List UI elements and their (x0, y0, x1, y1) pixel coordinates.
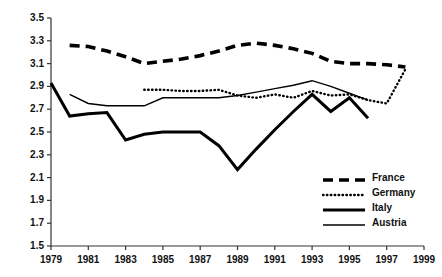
y-tick-label: 1.7 (4, 217, 44, 228)
series-line-italy (51, 83, 368, 170)
legend-item-france: France (322, 170, 434, 185)
legend-swatch-austria-icon (322, 217, 366, 229)
y-tick-label: 2.1 (4, 172, 44, 183)
series-line-austria (70, 81, 368, 106)
legend-label-france: France (372, 172, 405, 183)
legend-swatch-germany-icon (322, 187, 366, 199)
y-tick-label: 2.3 (4, 149, 44, 160)
x-tick-label: 1995 (329, 254, 369, 265)
legend-swatch-italy-icon (322, 202, 366, 214)
legend-item-italy: Italy (322, 200, 434, 215)
x-tick-label: 1989 (218, 254, 258, 265)
y-tick-label: 3.3 (4, 35, 44, 46)
legend: France Germany Italy Austria (322, 170, 434, 230)
plot-area (0, 0, 442, 277)
legend-label-germany: Germany (372, 187, 415, 198)
x-tick-label: 1999 (404, 254, 442, 265)
y-tick-label: 3.1 (4, 58, 44, 69)
x-tick-label: 1997 (367, 254, 407, 265)
y-tick-label: 1.5 (4, 240, 44, 251)
x-tick-label: 1981 (68, 254, 108, 265)
x-tick-label: 1985 (143, 254, 183, 265)
y-tick-label: 3.5 (4, 12, 44, 23)
x-tick-label: 1993 (292, 254, 332, 265)
y-tick-label: 2.9 (4, 80, 44, 91)
y-tick-label: 2.5 (4, 126, 44, 137)
legend-label-austria: Austria (372, 217, 406, 228)
line-chart: 1.51.71.92.12.32.52.72.93.13.33.5 197919… (0, 0, 442, 277)
y-tick-label: 1.9 (4, 194, 44, 205)
y-tick-label: 2.7 (4, 103, 44, 114)
x-tick-label: 1983 (106, 254, 146, 265)
data-series (51, 43, 405, 170)
legend-label-italy: Italy (372, 202, 392, 213)
legend-item-austria: Austria (322, 215, 434, 230)
legend-item-germany: Germany (322, 185, 434, 200)
x-tick-label: 1987 (180, 254, 220, 265)
series-line-france (70, 43, 406, 67)
legend-swatch-france-icon (322, 172, 366, 184)
x-tick-label: 1979 (31, 254, 71, 265)
x-tick-label: 1991 (255, 254, 295, 265)
